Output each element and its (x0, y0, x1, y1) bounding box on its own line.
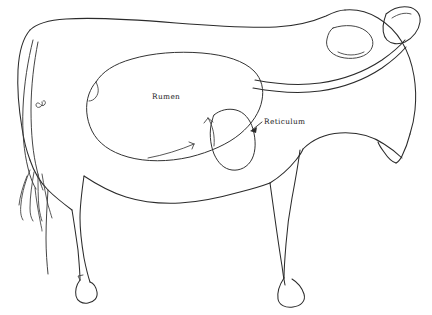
body-outline-topline (30, 10, 345, 30)
neck-throat-upper (255, 40, 405, 84)
label-rumen: Rumen (152, 92, 180, 101)
cow-diagram-svg: Rumen Reticulum (0, 0, 432, 315)
shoulder-blade (327, 26, 373, 59)
body-outline-belly (84, 176, 270, 203)
organ-junction-marks (148, 118, 214, 158)
hip-mark (36, 101, 45, 108)
foreleg-near-front (284, 150, 300, 278)
reticulum-leader-line (252, 122, 262, 130)
rumen-outline (87, 52, 263, 161)
head-muzzle (396, 134, 410, 163)
tail (23, 40, 36, 189)
hindleg-far (46, 190, 48, 274)
hindleg-rear-hoof (76, 280, 97, 303)
head-forehead (345, 10, 416, 134)
hindleg-rear-back (72, 210, 80, 280)
foreleg-near-back (270, 183, 285, 285)
head-jawline (378, 142, 396, 163)
reticulum-arrowhead (250, 127, 257, 133)
shoulder-blade-inner (338, 52, 364, 55)
anatomy-diagram: Rumen Reticulum (0, 0, 432, 315)
foreleg-near-hoof (278, 278, 305, 307)
ear-inner (392, 13, 411, 18)
hindleg-rear-front (80, 176, 90, 282)
neck-dewlap (303, 133, 402, 158)
neck-throat-lower (253, 47, 406, 92)
label-reticulum: Reticulum (264, 117, 305, 126)
